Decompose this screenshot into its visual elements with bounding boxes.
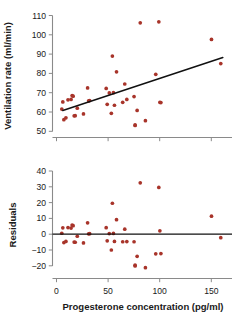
data-point — [73, 240, 77, 244]
data-point — [144, 266, 148, 270]
y-tick-label: 30 — [36, 182, 46, 192]
data-point — [121, 240, 125, 244]
data-point — [157, 186, 161, 190]
top-panel-y-tick-labels: 110 100 90 80 70 60 50 — [32, 11, 47, 137]
data-point — [113, 103, 117, 107]
bottom-panel-y-tick-labels: 40 30 20 10 0 −10 −20 — [31, 166, 46, 271]
data-point — [144, 119, 148, 123]
y-tick-label: 80 — [36, 68, 46, 78]
top-panel-y-axis-label: Ventilation rate (ml/min) — [2, 22, 13, 130]
data-point — [71, 94, 75, 98]
data-point — [135, 109, 139, 113]
y-tick-label: 70 — [36, 88, 46, 98]
data-point — [61, 226, 65, 230]
bottom-panel: Residuals 40 30 20 10 0 −10 −20 — [7, 166, 232, 312]
y-tick-label: 60 — [36, 107, 46, 117]
data-point — [133, 124, 137, 128]
data-point — [135, 254, 139, 258]
data-point — [210, 214, 214, 218]
bottom-panel-y-axis-label: Residuals — [7, 203, 18, 248]
data-point — [159, 252, 163, 256]
data-point — [82, 112, 86, 116]
data-point — [138, 21, 142, 25]
data-point — [121, 101, 125, 105]
data-point — [86, 221, 90, 225]
y-tick-label: 90 — [36, 49, 46, 59]
data-point — [154, 73, 158, 77]
data-point — [105, 239, 109, 243]
bottom-panel-y-tick-marks — [49, 171, 53, 266]
data-point — [61, 100, 65, 104]
x-tick-label: 100 — [153, 286, 168, 296]
data-point — [111, 201, 115, 205]
y-tick-label: 0 — [41, 229, 46, 239]
top-panel-data-points — [60, 20, 223, 127]
x-tick-label: 50 — [103, 286, 113, 296]
y-tick-label: 40 — [36, 166, 46, 176]
y-tick-label: 10 — [36, 213, 46, 223]
y-tick-label: 50 — [36, 126, 46, 136]
data-point — [159, 101, 163, 105]
data-point — [82, 241, 86, 245]
bottom-panel-x-tick-labels: 0 50 100 150 — [54, 286, 219, 296]
data-point — [64, 116, 68, 120]
y-tick-label: 20 — [36, 198, 46, 208]
data-point — [66, 226, 70, 230]
y-tick-label: 100 — [32, 30, 47, 40]
data-point — [73, 114, 77, 118]
data-point — [132, 95, 136, 99]
bottom-panel-x-tick-marks — [57, 279, 212, 283]
data-point — [115, 218, 119, 222]
data-point — [111, 54, 115, 58]
data-point — [123, 82, 127, 86]
data-point — [157, 20, 161, 24]
data-point — [113, 240, 117, 244]
data-point — [132, 240, 136, 244]
data-point — [219, 62, 223, 66]
data-point — [109, 248, 113, 252]
data-point — [105, 102, 109, 106]
data-point — [115, 70, 119, 74]
figure-canvas: Ventilation rate (ml/min) 110 100 90 80 … — [0, 0, 238, 315]
top-panel-x-tick-marks — [57, 138, 212, 142]
data-point — [69, 98, 73, 102]
y-tick-label: 110 — [32, 11, 46, 21]
data-point — [219, 236, 223, 240]
data-point — [125, 98, 129, 102]
data-point — [123, 227, 127, 231]
top-panel: Ventilation rate (ml/min) 110 100 90 80 … — [2, 11, 232, 142]
top-panel-y-tick-marks — [49, 16, 53, 132]
data-point — [104, 226, 108, 230]
data-point — [109, 112, 113, 116]
x-tick-label: 150 — [204, 286, 219, 296]
data-point — [125, 240, 129, 244]
y-tick-label: −10 — [31, 245, 46, 255]
data-point — [158, 229, 162, 233]
data-point — [64, 240, 68, 244]
y-tick-label: −20 — [31, 261, 46, 271]
data-point — [154, 252, 158, 256]
bottom-panel-x-axis-label: Progesterone concentration (pg/ml) — [63, 301, 224, 312]
data-point — [104, 87, 108, 91]
top-panel-regression-line — [63, 58, 223, 111]
data-point — [210, 38, 214, 42]
x-tick-label: 0 — [54, 286, 59, 296]
data-point — [75, 234, 79, 238]
data-point — [71, 224, 75, 228]
data-point — [138, 181, 142, 185]
data-point — [86, 86, 90, 90]
bottom-panel-data-points — [60, 181, 223, 270]
data-point — [133, 264, 137, 268]
scatter-plot-figure: Ventilation rate (ml/min) 110 100 90 80 … — [0, 0, 238, 315]
